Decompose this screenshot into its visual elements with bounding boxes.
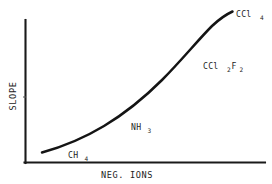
point-label-ch4-base: CH xyxy=(68,150,78,160)
y-axis-label: SLOPE xyxy=(8,82,18,111)
point-label-ch4: CH 4 xyxy=(68,150,89,162)
point-label-nh3-base: NH xyxy=(131,122,141,132)
point-label-ch4-subscript: 4 xyxy=(85,155,89,162)
plot-canvas: SLOPE NEG. IONS CH 4 NH 3 CCl 2 F 2 CCl … xyxy=(0,0,272,184)
point-label-nh3: NH 3 xyxy=(131,122,152,134)
point-label-ccl2f2-base2: F xyxy=(232,61,237,71)
point-label-nh3-subscript: 3 xyxy=(148,127,152,134)
point-label-ccl2f2-subscript: 2 xyxy=(227,66,231,73)
point-label-ccl4-base: CCl xyxy=(236,9,252,19)
chart-figure: SLOPE NEG. IONS CH 4 NH 3 CCl 2 F 2 CCl … xyxy=(0,0,272,184)
point-label-ccl2f2-base: CCl xyxy=(203,61,219,71)
x-axis-label: NEG. IONS xyxy=(101,170,153,180)
point-label-ccl4: CCl 4 xyxy=(236,9,264,21)
point-label-ccl4-subscript: 4 xyxy=(260,14,264,21)
point-label-ccl2f2-subscript2: 2 xyxy=(240,66,244,73)
point-label-ccl2f2: CCl 2 F 2 xyxy=(203,61,244,73)
